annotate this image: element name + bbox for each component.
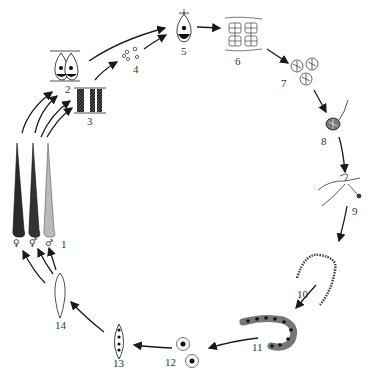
label-stage-6: 6 [235, 56, 241, 67]
stage-8-flagellate [326, 100, 348, 130]
label-stage-14: 14 [55, 320, 66, 331]
label-stage-3: 3 [87, 116, 93, 127]
label-stage-9: 9 [352, 206, 358, 217]
stage-1-spores [13, 143, 55, 237]
stage-6-cell-clusters [225, 17, 262, 51]
label-stage-4: 4 [133, 64, 139, 75]
stage-5-cell [177, 9, 191, 42]
stage-12-spheres [177, 338, 199, 368]
label-stage-1: 1 [61, 239, 67, 250]
stage-2-cysts [50, 51, 80, 81]
label-stage-8: 8 [321, 136, 327, 147]
stage-4-small-spheres [122, 47, 138, 60]
label-stage-13: 13 [113, 358, 124, 369]
label-stage-7: 7 [281, 78, 287, 89]
stage-11-cell-chain [243, 316, 294, 348]
male-symbol: ♂ [45, 239, 53, 248]
stage-14-empty-spore [55, 273, 65, 318]
stage-3-bands [74, 88, 106, 113]
hermaphrodite-symbol: ⚥ [29, 239, 37, 248]
female-symbol: ♀ [13, 239, 20, 248]
label-stage-12: 12 [165, 357, 176, 368]
label-stage-5: 5 [181, 46, 187, 57]
label-stage-10: 10 [297, 289, 308, 300]
label-stage-2: 2 [65, 84, 71, 95]
stage-7-rosettes [291, 58, 318, 85]
stage-13-elongate-cell [115, 324, 124, 359]
stage-9-branching-form [318, 174, 361, 206]
label-stage-11: 11 [252, 342, 263, 353]
